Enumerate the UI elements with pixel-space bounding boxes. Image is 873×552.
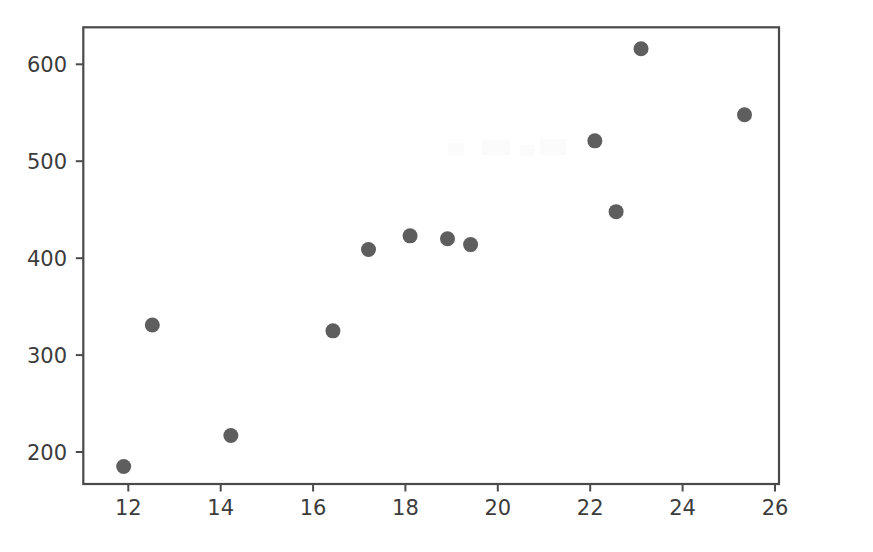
x-tick-label: 14 [207,496,234,520]
scatter-point [116,459,131,474]
plot-canvas: 12 14 16 18 20 22 24 26 200 300 400 500 … [0,0,873,552]
scatter-plot-figure: 12 14 16 18 20 22 24 26 200 300 400 500 … [0,0,873,552]
scatter-point [403,228,418,243]
x-tick-label: 24 [669,496,696,520]
x-tick-label: 22 [577,496,604,520]
scatter-point [325,323,340,338]
x-tick-label: 12 [115,496,142,520]
scatter-point [145,318,160,333]
scatter-point [440,231,455,246]
figure-background [0,0,873,552]
x-tick-label: 16 [300,496,327,520]
y-tick-label: 500 [27,150,67,174]
scatter-point [361,242,376,257]
y-tick-label: 600 [27,53,67,77]
scatter-point [737,107,752,122]
x-tick-label: 26 [762,496,789,520]
y-tick-label: 200 [27,441,67,465]
scatter-point [609,204,624,219]
scatter-point [634,41,649,56]
y-tick-label: 400 [27,247,67,271]
x-tick-label: 20 [484,496,511,520]
scatter-point [587,133,602,148]
scatter-point [463,237,478,252]
scatter-point [223,428,238,443]
x-tick-label: 18 [392,496,419,520]
y-tick-label: 300 [27,344,67,368]
